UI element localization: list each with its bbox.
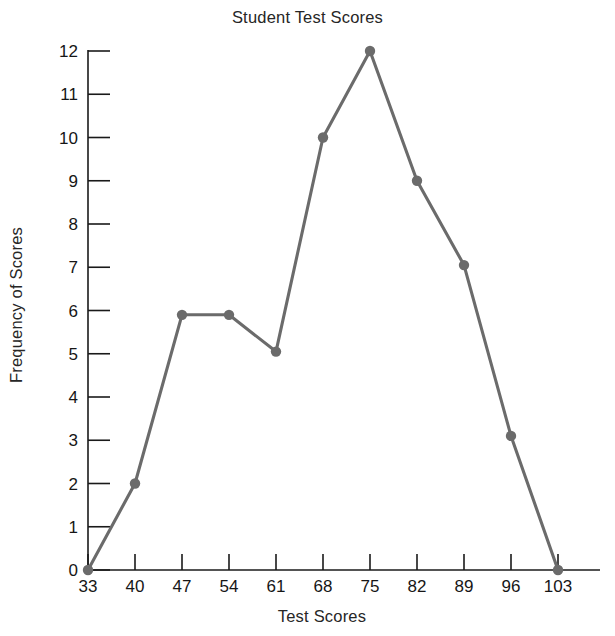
x-tick-label: 40 [126, 577, 145, 596]
x-axis-ticks [88, 554, 558, 570]
y-tick-label: 11 [60, 85, 78, 104]
x-tick-label: 47 [173, 577, 192, 596]
y-tick-label: 7 [69, 258, 78, 277]
data-point [177, 310, 187, 320]
y-tick-label: 4 [69, 388, 78, 407]
chart-container: Student Test Scores 0123456789101112 334… [0, 0, 615, 636]
x-axis-title: Test Scores [278, 607, 366, 625]
data-point [459, 260, 469, 270]
data-point [130, 478, 140, 488]
y-tick-label: 5 [69, 345, 78, 364]
y-tick-label: 6 [69, 302, 78, 321]
x-tick-label: 75 [361, 577, 380, 596]
x-tick-label: 33 [79, 577, 98, 596]
y-tick-label: 3 [69, 431, 78, 450]
x-tick-label: 89 [455, 577, 474, 596]
x-tick-label: 54 [220, 577, 239, 596]
y-tick-label: 0 [69, 561, 78, 580]
y-axis-title: Frequency of Scores [7, 227, 25, 383]
y-tick-label: 2 [69, 475, 78, 494]
data-point [271, 346, 281, 356]
data-point [83, 565, 93, 575]
data-point [224, 310, 234, 320]
y-axis-ticks [88, 51, 110, 570]
data-point [553, 565, 563, 575]
y-axis-tick-labels: 0123456789101112 [59, 42, 78, 580]
data-point [365, 46, 375, 56]
y-tick-label: 12 [59, 42, 78, 61]
chart-plot-area: 0123456789101112 33404754616875828996103… [0, 0, 615, 636]
x-tick-label: 82 [408, 577, 427, 596]
y-tick-label: 9 [69, 172, 78, 191]
x-tick-label: 61 [267, 577, 286, 596]
data-point [506, 431, 516, 441]
y-tick-label: 1 [69, 518, 78, 537]
y-tick-label: 10 [59, 129, 78, 148]
data-series-line [88, 51, 558, 570]
x-axis-tick-labels: 33404754616875828996103 [79, 577, 573, 596]
y-tick-label: 8 [69, 215, 78, 234]
data-point [318, 132, 328, 142]
data-point [412, 176, 422, 186]
x-tick-label: 96 [502, 577, 521, 596]
data-point-markers [83, 46, 563, 575]
x-tick-label: 103 [544, 577, 572, 596]
x-tick-label: 68 [314, 577, 333, 596]
